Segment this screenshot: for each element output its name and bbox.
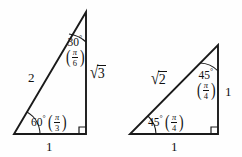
fraction-pi-over-4: π 4 xyxy=(171,113,177,132)
fraction-pi-over-6: π 6 xyxy=(72,48,78,67)
right-angle-marker-left xyxy=(79,127,86,134)
fraction-numerator: π xyxy=(203,81,209,90)
radicand-3: 3 xyxy=(97,65,106,81)
label-vertical-leg-sqrt3: √3 xyxy=(90,65,106,81)
fraction-denominator: 4 xyxy=(203,90,209,100)
label-hypotenuse-sqrt2: √2 xyxy=(151,71,167,87)
paren-right: ) xyxy=(210,82,215,98)
fraction-denominator: 3 xyxy=(54,122,60,132)
radicand-2: 2 xyxy=(158,71,167,87)
paren-right: ) xyxy=(79,49,84,65)
degree-symbol-icon: ° xyxy=(79,34,82,43)
label-vertical-leg-1: 1 xyxy=(225,85,232,98)
degree-symbol-icon: ° xyxy=(160,114,163,123)
label-base-1-left: 1 xyxy=(46,140,53,153)
fraction-numerator: π xyxy=(54,113,60,122)
label-hypotenuse-2: 2 xyxy=(28,71,35,84)
figure-canvas: 2 √3 1 30° ( π 6 ) 60° ( xyxy=(0,0,242,157)
radical-sign-icon: √ xyxy=(151,70,159,88)
paren-right: ) xyxy=(62,114,67,130)
paren-right: ) xyxy=(179,114,184,130)
angle-45-base-degrees-text: 45° xyxy=(148,117,163,129)
label-angle-45-base: 45° ( π 4 ) xyxy=(148,113,184,132)
angle-60-radian-text: ( π 3 ) xyxy=(47,113,67,132)
paren-left: ( xyxy=(66,49,71,65)
fraction-denominator: 4 xyxy=(171,122,177,132)
angle-45-apex-radian-text: ( π 4 ) xyxy=(196,81,216,100)
label-angle-45-apex: 45° ( π 4 ) xyxy=(196,69,216,100)
angle-60-value: 60 xyxy=(31,116,43,128)
paren-left: ( xyxy=(48,114,53,130)
fraction-numerator: π xyxy=(171,113,177,122)
paren-left: ( xyxy=(165,114,170,130)
fraction-pi-over-3: π 3 xyxy=(54,113,60,132)
angle-45-base-value: 45 xyxy=(148,116,160,128)
label-base-1-right: 1 xyxy=(171,140,178,153)
label-angle-30: 30° ( π 6 ) xyxy=(65,36,85,67)
fraction-numerator: π xyxy=(72,48,78,57)
angle-30-radian-text: ( π 6 ) xyxy=(65,48,85,67)
degree-symbol-icon: ° xyxy=(210,67,213,76)
fraction-pi-over-4: π 4 xyxy=(203,81,209,100)
label-angle-60: 60° ( π 3 ) xyxy=(31,113,67,132)
fraction-denominator: 6 xyxy=(72,57,78,67)
radical-sign-icon: √ xyxy=(90,64,98,82)
degree-symbol-icon: ° xyxy=(43,114,46,123)
right-angle-marker-right xyxy=(211,127,218,134)
angle-60-degrees-text: 60° xyxy=(31,117,46,129)
paren-left: ( xyxy=(197,82,202,98)
angle-45-base-radian-text: ( π 4 ) xyxy=(164,113,184,132)
